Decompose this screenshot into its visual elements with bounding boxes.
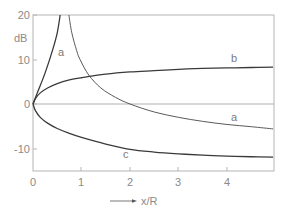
- y-tick-label: 20: [18, 9, 30, 21]
- y-tick-label: -10: [14, 143, 30, 155]
- x-tick-label: 3: [175, 176, 181, 188]
- x-ticks: [81, 167, 227, 171]
- curve-a-branch-1: [33, 15, 60, 104]
- y-tick-label: 10: [18, 54, 30, 66]
- curves: [33, 15, 273, 157]
- curve-a-branch-2: [69, 15, 273, 129]
- curve-label-a-lower: a: [231, 111, 238, 123]
- x-axis-label: x/R: [141, 195, 158, 207]
- x-tick-label: 0: [30, 176, 36, 188]
- x-axis-arrow-icon: [110, 199, 137, 203]
- y-axis-label: dB: [14, 32, 27, 44]
- curve-label-b: b: [231, 52, 237, 64]
- curve-label-c: c: [123, 148, 129, 160]
- y-tick-label: 0: [24, 98, 30, 110]
- x-tick-label: 1: [78, 176, 84, 188]
- y-ticks: [33, 15, 37, 149]
- x-tick-label: 4: [224, 176, 230, 188]
- curve-label-a-upper: a: [58, 46, 65, 58]
- plot-frame: [33, 15, 274, 171]
- x-tick-label: 2: [127, 176, 133, 188]
- curve-b: [33, 67, 273, 104]
- chart: 20 10 0 -10 dB 0 1 2 3 4 x/R a b a c: [0, 0, 290, 217]
